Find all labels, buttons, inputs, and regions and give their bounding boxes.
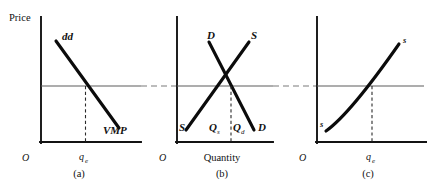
panel-b-qs-base: Q (209, 121, 217, 133)
panel-b-quantity-supplied-label: Q s (209, 121, 220, 136)
panel-a-qe-subscript: e (85, 157, 88, 165)
panel-a-caption: (a) (73, 168, 85, 180)
panel-c-caption: (c) (362, 168, 374, 180)
panel-c-supply-curve (326, 44, 399, 131)
y-axis-label: Price (9, 12, 31, 23)
economics-figure: Price dd VMP O q e (a) D S S D (0, 0, 427, 180)
panel-a-equilibrium-tick-label: q e (79, 151, 88, 165)
panel-b-supply-top-label: S (251, 29, 257, 41)
panel-b-x-axis-label: Quantity (204, 152, 241, 163)
panel-c-qe-base: q (366, 151, 371, 162)
panel-b-supply-bottom-label: S (179, 121, 185, 133)
panel-b-demand-top-label: D (206, 29, 215, 41)
panel-b-caption: (b) (216, 168, 229, 180)
panel-c: s s O q e (c) (299, 17, 427, 180)
panel-a-demand-curve (56, 41, 119, 128)
panel-b: D S S D Q s Q d O Quantity (b) (159, 17, 273, 180)
panel-c-qe-subscript: e (372, 157, 375, 165)
panel-b-origin-label: O (159, 152, 166, 163)
panel-c-supply-top-label: s (402, 35, 407, 45)
panel-a-demand-bottom-label: VMP (103, 124, 127, 136)
panel-b-qd-base: Q (233, 121, 241, 133)
panel-b-qd-subscript: d (241, 128, 245, 136)
panel-a: Price dd VMP O q e (a) (9, 12, 141, 180)
panel-b-qs-subscript: s (217, 128, 220, 136)
panel-a-origin-label: O (22, 152, 29, 163)
panel-a-demand-top-label: dd (62, 30, 74, 42)
panel-b-quantity-demanded-label: Q d (233, 121, 245, 136)
panel-a-qe-base: q (79, 151, 84, 162)
panel-c-origin-label: O (299, 152, 306, 163)
panel-c-supply-bottom-label: s (319, 119, 324, 129)
panel-c-equilibrium-tick-label: q e (366, 151, 375, 165)
panel-b-demand-bottom-label: D (257, 121, 266, 133)
figure-canvas: Price dd VMP O q e (a) D S S D (0, 0, 427, 180)
